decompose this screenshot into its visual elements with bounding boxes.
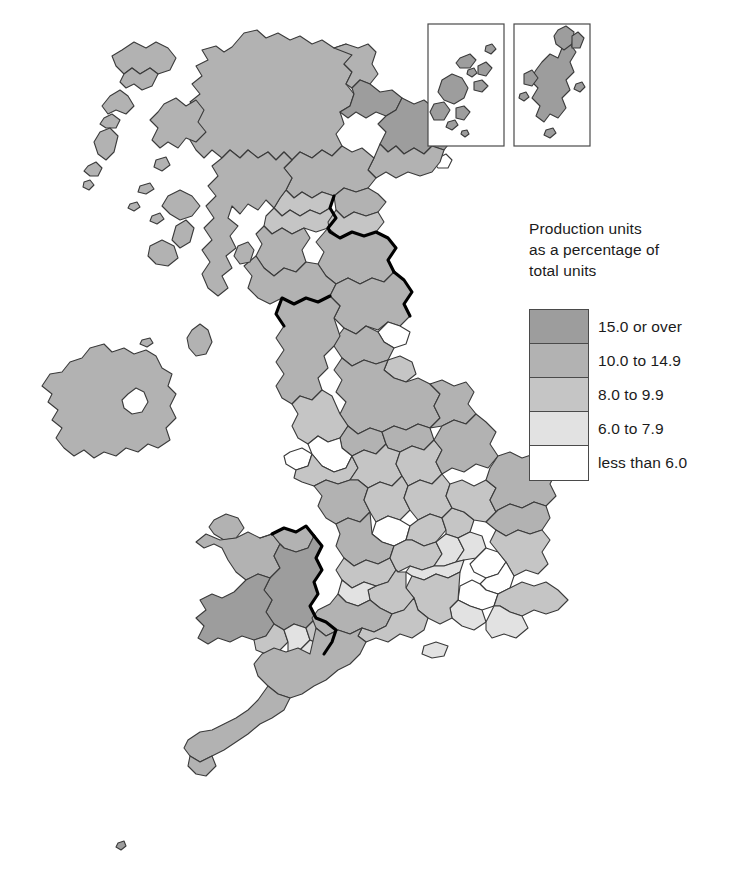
legend-title: Production units as a percentage of tota… — [529, 218, 729, 281]
region-northumberland — [330, 272, 412, 334]
legend-row-less-than-6: less than 6.0 — [530, 446, 588, 480]
legend-label-15-or-over: 15.0 or over — [598, 318, 682, 336]
legend-row-8-to-9-9: 8.0 to 9.9 — [530, 378, 588, 412]
legend-label-less-than-6: less than 6.0 — [598, 454, 687, 472]
legend-label-10-to-14-9: 10.0 to 14.9 — [598, 352, 681, 370]
legend-label-8-to-9-9: 8.0 to 9.9 — [598, 386, 664, 404]
legend-row-15-or-over: 15.0 or over — [530, 310, 588, 344]
inset-shetland — [514, 24, 590, 146]
legend-row-10-to-14-9: 10.0 to 14.9 — [530, 344, 588, 378]
legend-row-6-to-7-9: 6.0 to 7.9 — [530, 412, 588, 446]
legend-label-6-to-7-9: 6.0 to 7.9 — [598, 420, 664, 438]
inset-orkney — [428, 24, 504, 146]
choropleth-map-figure: .rg { stroke: #3a3a3a; stroke-width: 1.1… — [0, 0, 732, 880]
legend-swatch-column: 15.0 or over 10.0 to 14.9 8.0 to 9.9 6.0… — [529, 309, 589, 481]
region-highland — [190, 30, 354, 160]
map-legend: Production units as a percentage of tota… — [529, 218, 729, 481]
